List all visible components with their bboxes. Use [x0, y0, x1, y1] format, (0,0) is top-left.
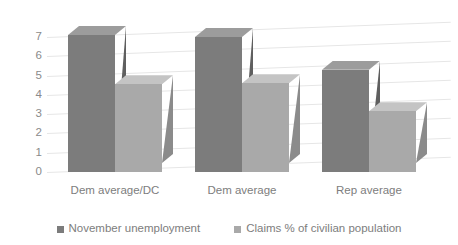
bar-top-face	[322, 61, 380, 70]
bar	[369, 111, 416, 172]
bar-front-face	[322, 70, 369, 172]
bar-side-face	[162, 75, 173, 163]
bar-front-face	[242, 83, 289, 172]
square-swatch-dark-icon	[57, 226, 64, 233]
bar	[68, 35, 115, 172]
legend-entry[interactable]: Claims % of civilian population	[234, 223, 401, 235]
legend-label: Claims % of civilian population	[246, 223, 401, 235]
x-axis-category-labels: Dem average/DCDem averageRep average	[0, 181, 458, 205]
bar	[322, 70, 369, 172]
bar-front-face	[369, 111, 416, 172]
square-swatch-light-icon	[234, 226, 241, 233]
bar-side-face	[289, 74, 300, 163]
x-axis-category-label: Rep average	[299, 185, 439, 197]
bar-top-face	[68, 26, 126, 35]
bar-front-face	[115, 84, 162, 172]
chart-legend: November unemploymentClaims % of civilia…	[0, 219, 458, 239]
chart-container: 76543210 Dem average/DCDem averageRep av…	[0, 0, 458, 245]
bar-front-face	[68, 35, 115, 172]
legend-entry[interactable]: November unemployment	[57, 223, 201, 235]
bar	[195, 37, 242, 172]
bar	[242, 83, 289, 172]
x-axis-category-label: Dem average	[172, 185, 312, 197]
legend-label: November unemployment	[69, 223, 201, 235]
bar	[115, 84, 162, 172]
bars-layer	[0, 0, 458, 180]
plot-area: 76543210	[0, 0, 458, 180]
x-axis-category-label: Dem average/DC	[45, 185, 185, 197]
bar-side-face	[416, 102, 427, 163]
bar-front-face	[195, 37, 242, 172]
bar-top-face	[195, 28, 253, 37]
